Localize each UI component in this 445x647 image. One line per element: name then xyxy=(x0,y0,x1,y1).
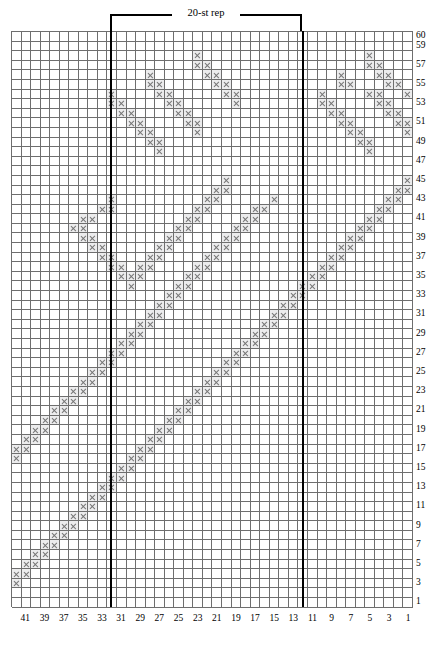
chart-cell-empty xyxy=(279,186,289,196)
chart-cell-empty xyxy=(212,464,222,474)
chart-cell-empty xyxy=(384,493,394,503)
chart-cell-empty xyxy=(31,473,41,483)
chart-cell-empty xyxy=(107,118,117,128)
chart-cell-empty xyxy=(308,464,318,474)
chart-cell-empty xyxy=(375,243,385,253)
chart-cell-empty xyxy=(117,243,127,253)
chart-cell-empty xyxy=(12,502,22,512)
chart-cell-empty xyxy=(79,42,89,52)
chart-cell-empty xyxy=(69,310,79,320)
chart-cell-empty xyxy=(403,205,413,215)
chart-cell-empty xyxy=(232,397,242,407)
chart-cell-empty xyxy=(79,329,89,339)
chart-cell-empty xyxy=(384,416,394,426)
chart-cell-empty xyxy=(337,368,347,378)
stitch-number-label: 33 xyxy=(97,609,107,627)
chart-cell-empty xyxy=(318,416,328,426)
chart-cell-empty xyxy=(107,233,117,243)
chart-cell-empty xyxy=(403,339,413,349)
chart-cell-empty xyxy=(69,435,79,445)
chart-cell-empty xyxy=(403,243,413,253)
stitch-number-label: 27 xyxy=(155,609,165,627)
chart-cell-empty xyxy=(384,454,394,464)
chart-cell-empty xyxy=(127,42,137,52)
chart-cell-empty xyxy=(184,502,194,512)
chart-cell-empty xyxy=(69,445,79,455)
chart-cell-empty xyxy=(270,253,280,263)
chart-cell-empty xyxy=(260,560,270,570)
chart-cell-empty xyxy=(50,339,60,349)
chart-cell-empty xyxy=(174,214,184,224)
chart-cell-empty xyxy=(165,512,175,522)
chart-row xyxy=(12,531,413,541)
chart-row xyxy=(12,51,413,61)
chart-cell-empty xyxy=(337,358,347,368)
chart-cell-empty xyxy=(117,454,127,464)
chart-cell-empty xyxy=(241,61,251,71)
chart-cell-marked xyxy=(50,406,60,416)
chart-cell-empty xyxy=(222,349,232,359)
chart-cell-empty xyxy=(260,425,270,435)
chart-cell-empty xyxy=(212,32,222,42)
chart-cell-empty xyxy=(98,569,108,579)
chart-cell-marked xyxy=(193,128,203,138)
chart-row xyxy=(12,406,413,416)
chart-cell-empty xyxy=(203,186,213,196)
chart-cell-empty xyxy=(31,397,41,407)
chart-cell-empty xyxy=(12,339,22,349)
chart-cell-marked xyxy=(365,61,375,71)
chart-cell-empty xyxy=(155,157,165,167)
chart-cell-marked xyxy=(107,253,117,263)
chart-cell-empty xyxy=(346,550,356,560)
chart-row xyxy=(12,445,413,455)
chart-cell-empty xyxy=(136,406,146,416)
chart-cell-empty xyxy=(136,281,146,291)
chart-cell-empty xyxy=(88,80,98,90)
stitch-number-label: 9 xyxy=(327,609,337,627)
chart-cell-empty xyxy=(212,454,222,464)
chart-cell-empty xyxy=(394,291,404,301)
chart-cell-empty xyxy=(260,90,270,100)
chart-cell-marked xyxy=(193,51,203,61)
chart-cell-empty xyxy=(12,416,22,426)
chart-cell-empty xyxy=(31,464,41,474)
chart-cell-empty xyxy=(41,464,51,474)
chart-cell-empty xyxy=(251,540,261,550)
chart-cell-empty xyxy=(394,521,404,531)
chart-cell-empty xyxy=(384,349,394,359)
chart-cell-empty xyxy=(337,205,347,215)
chart-cell-empty xyxy=(31,42,41,52)
chart-cell-empty xyxy=(60,445,70,455)
chart-cell-empty xyxy=(356,99,366,109)
chart-cell-empty xyxy=(289,329,299,339)
chart-cell-empty xyxy=(212,425,222,435)
chart-cell-empty xyxy=(241,425,251,435)
chart-cell-empty xyxy=(12,377,22,387)
chart-cell-marked xyxy=(251,329,261,339)
chart-cell-empty xyxy=(69,329,79,339)
chart-cell-marked xyxy=(365,90,375,100)
chart-cell-empty xyxy=(241,493,251,503)
chart-cell-empty xyxy=(260,214,270,224)
chart-cell-empty xyxy=(22,483,32,493)
chart-cell-empty xyxy=(12,118,22,128)
chart-cell-empty xyxy=(403,598,413,608)
chart-cell-empty xyxy=(327,291,337,301)
chart-cell-empty xyxy=(22,310,32,320)
chart-cell-empty xyxy=(251,445,261,455)
chart-cell-empty xyxy=(50,51,60,61)
chart-cell-empty xyxy=(136,598,146,608)
chart-cell-empty xyxy=(31,339,41,349)
chart-cell-empty xyxy=(41,243,51,253)
chart-cell-empty xyxy=(289,521,299,531)
chart-cell-empty xyxy=(327,454,337,464)
chart-cell-marked xyxy=(308,281,318,291)
chart-cell-empty xyxy=(127,540,137,550)
chart-cell-empty xyxy=(165,224,175,234)
chart-cell-empty xyxy=(60,128,70,138)
row-number-label: 23 xyxy=(416,386,445,396)
chart-cell-marked xyxy=(251,205,261,215)
chart-cell-empty xyxy=(155,454,165,464)
chart-cell-empty xyxy=(365,598,375,608)
chart-cell-marked xyxy=(403,128,413,138)
